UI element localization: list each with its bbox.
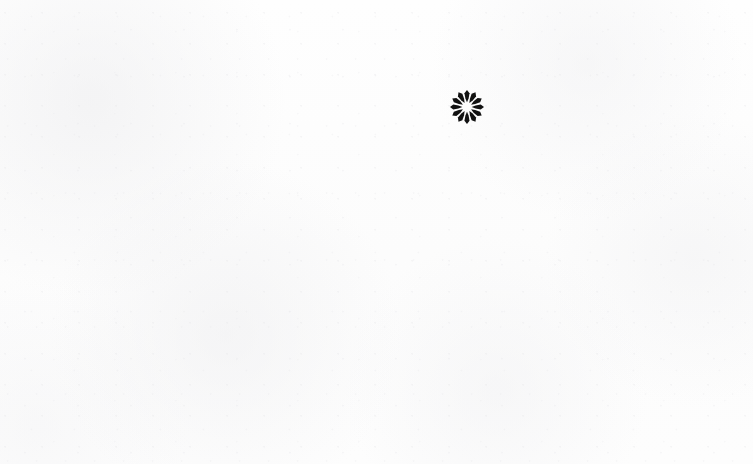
rosette-ornament-graphic	[450, 90, 484, 124]
rosette-wedge	[472, 104, 484, 109]
rosette-wedge	[464, 90, 469, 102]
rosette-wedge	[450, 104, 462, 109]
scanned-page: Printer's fleuron: dark starburst rosett…	[0, 0, 753, 464]
paper-grain-texture	[0, 0, 753, 464]
rosette-wedges	[450, 90, 484, 124]
rosette-wedge	[464, 112, 469, 124]
rosette-ornament	[450, 90, 484, 124]
